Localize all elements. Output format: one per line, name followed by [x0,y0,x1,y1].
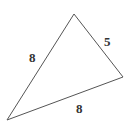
side-right-label: 5 [104,34,111,49]
side-left-label: 8 [29,50,36,65]
triangle-diagram: 8 5 8 [0,0,127,126]
side-bottom-label: 8 [76,101,83,116]
triangle-shape [7,14,123,120]
